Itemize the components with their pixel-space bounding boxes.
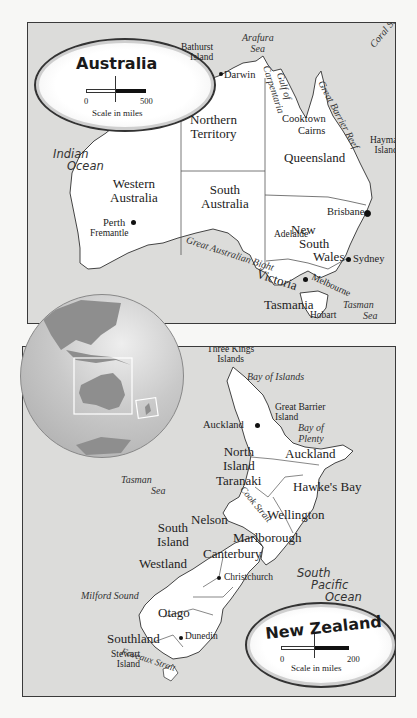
city-perth: Perth xyxy=(103,217,125,228)
label-line: Islands xyxy=(207,355,254,365)
region-taranaki: Taranaki xyxy=(216,474,261,488)
label-line: Island xyxy=(370,146,396,156)
city-dot-icon xyxy=(219,72,223,76)
city-sydney: Sydney xyxy=(353,253,385,264)
region-nelson: Nelson xyxy=(191,513,228,527)
island-great-barrier: Great Barrier Island xyxy=(275,403,325,423)
region-north-island: North Island xyxy=(223,445,255,472)
region-south-island: South Island xyxy=(157,521,189,548)
water-milford-sound: Milford Sound xyxy=(81,591,139,602)
north-arrow-icon xyxy=(115,76,116,102)
city-dot-icon xyxy=(179,636,183,640)
label-line: Sea xyxy=(343,311,377,322)
scale-min: 0 xyxy=(84,96,88,106)
region-otago: Otago xyxy=(158,606,190,620)
scale-min: 0 xyxy=(280,654,284,664)
city-darwin: Darwin xyxy=(224,69,256,80)
australia-map-panel: Australia 0 500 Scale in miles Western A… xyxy=(27,22,396,324)
city-dot-icon xyxy=(131,220,136,225)
region-northern-territory: Northern Territory xyxy=(190,113,237,140)
scale-bar-black xyxy=(116,89,146,93)
water-indian-ocean: Indian Ocean xyxy=(53,148,104,172)
label-line: South xyxy=(201,183,249,197)
city-hobart: Hobart xyxy=(310,311,336,321)
scale-bar-black xyxy=(315,646,349,650)
label-line: North xyxy=(223,445,255,459)
label-line: Western xyxy=(110,177,158,191)
label-line: Island xyxy=(157,535,189,549)
region-auckland: Auckland xyxy=(285,447,336,461)
island-three-kings: Three Kings Islands xyxy=(207,346,254,365)
new-zealand-legend: New Zealand 0 200 Scale in miles xyxy=(245,602,396,688)
label-line: Ocean xyxy=(53,160,104,172)
island-bathurst: Bathurst Island xyxy=(181,43,213,63)
scale-label: Scale in miles xyxy=(291,663,342,673)
water-south-pacific-ocean: South Pacific Ocean xyxy=(297,567,362,603)
label-line: South xyxy=(157,521,189,535)
island-hayman: Hayman Island xyxy=(370,136,396,156)
city-fremantle: Fremantle xyxy=(90,229,129,239)
globe-landmasses xyxy=(21,295,183,457)
label-line: Tasman xyxy=(343,300,377,311)
label-line: Australia xyxy=(110,191,158,205)
region-tasmania: Tasmania xyxy=(264,298,314,312)
region-wellington: Wellington xyxy=(267,508,324,522)
city-dot-icon xyxy=(255,423,260,428)
city-christchurch: Christchurch xyxy=(224,573,273,583)
region-southland: Southland xyxy=(107,632,160,646)
label-line: Island xyxy=(181,53,213,63)
city-auckland: Auckland xyxy=(203,419,244,430)
water-bay-of-plenty: Bay of Plenty xyxy=(298,423,324,444)
region-south-australia: South Australia xyxy=(201,183,249,210)
city-adelaide: Adelaide xyxy=(274,230,308,240)
label-line: Territory xyxy=(190,127,237,141)
label-line: Australia xyxy=(201,197,249,211)
label-line: Northern xyxy=(190,113,237,127)
city-dot-icon xyxy=(303,277,308,282)
label-line: Island xyxy=(223,459,255,473)
label-line: Sea xyxy=(242,44,274,55)
scale-bar-white xyxy=(281,646,315,650)
label-line: Wales xyxy=(291,250,344,264)
region-marlborough: Marlborough xyxy=(233,531,302,545)
label-line: Sea xyxy=(121,486,165,497)
region-western-australia: Western Australia xyxy=(110,177,158,204)
city-dunedin: Dunedin xyxy=(185,632,218,642)
water-arafura-sea: Arafura Sea xyxy=(242,33,274,54)
region-westland: Westland xyxy=(139,557,187,571)
scale-max: 200 xyxy=(347,654,360,664)
legend-title: New Zealand xyxy=(264,612,382,643)
label-line: Queensland xyxy=(284,151,345,165)
city-dot-icon xyxy=(217,576,221,580)
city-dot-icon xyxy=(346,257,351,262)
label-line: Arafura xyxy=(242,33,274,44)
city-dot-icon xyxy=(364,210,371,217)
city-cooktown: Cooktown xyxy=(282,113,326,124)
region-hawkes-bay: Hawke's Bay xyxy=(293,480,361,494)
water-bay-of-islands: Bay of Islands xyxy=(247,372,304,383)
water-tasman-sea-nz: Tasman Sea xyxy=(121,475,165,496)
city-brisbane: Brisbane xyxy=(327,206,364,217)
legend-title: Australia xyxy=(76,54,157,73)
label-line: Bay of xyxy=(298,423,324,434)
label-line: Tasmania xyxy=(264,298,314,312)
label-line: Tasman xyxy=(121,475,165,486)
north-arrow-icon xyxy=(314,634,315,658)
region-canterbury: Canterbury xyxy=(203,547,261,561)
label-line: Plenty xyxy=(298,434,324,445)
scale-bar-white xyxy=(86,89,116,93)
locator-globe xyxy=(20,294,184,458)
region-queensland: Queensland xyxy=(284,151,345,165)
water-tasman-sea: Tasman Sea xyxy=(343,300,377,321)
scale-max: 500 xyxy=(140,96,153,106)
scale-label: Scale in miles xyxy=(92,108,143,118)
city-cairns: Cairns xyxy=(298,125,325,136)
